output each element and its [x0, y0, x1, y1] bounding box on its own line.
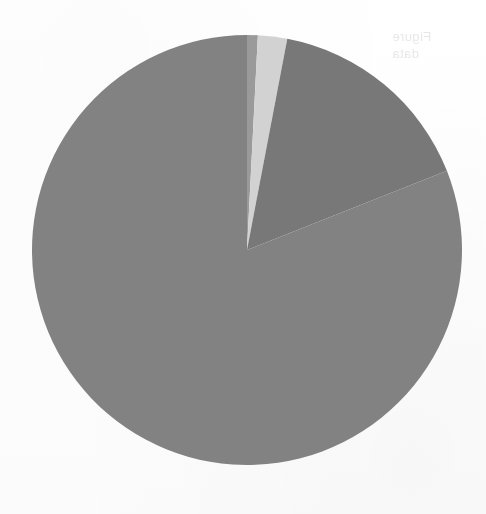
pie-chart-svg	[0, 0, 486, 514]
pie-chart	[0, 0, 486, 514]
chart-page: Figure data	[0, 0, 486, 514]
pie-slice-group	[32, 35, 462, 465]
